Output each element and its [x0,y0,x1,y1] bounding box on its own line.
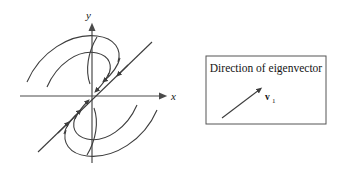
trajectory-outer-lower-right [65,110,157,156]
trajectory-inner-upper-left [47,52,110,87]
trajectory-inner-lower-right [74,105,137,140]
legend-vector-label: v [265,92,270,102]
legend-vector-label-subscript: 1 [272,97,276,105]
trajectory-group-lower [64,101,157,156]
figure-canvas: x y [0,0,342,171]
y-axis-label: y [85,9,91,21]
trajectory-outer-upper-left [27,36,119,82]
axes-group [20,30,160,163]
x-axis-label: x [170,90,176,102]
legend-box-group: Direction of eigenvector v 1 [206,56,326,124]
phase-portrait-figure: x y [0,0,342,171]
trajectory-inner-upper-left-arrowtail [96,73,109,91]
legend-title: Direction of eigenvector [210,62,323,75]
eigenvector-flow-arrow-upper [118,65,128,75]
trajectory-group-upper [27,36,120,91]
